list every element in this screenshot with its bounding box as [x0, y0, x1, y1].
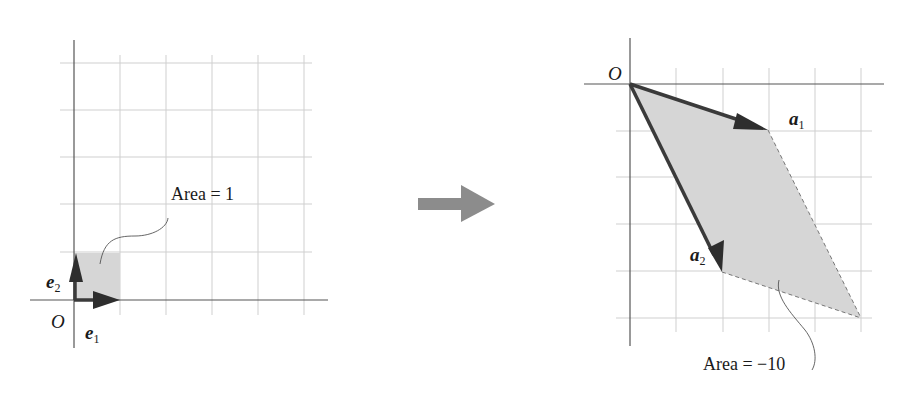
- vector-label-e1: e1: [85, 322, 99, 346]
- area-label-left: Area = 1: [171, 184, 234, 204]
- origin-label-right: O: [608, 63, 622, 84]
- right-panel: Area = −10 O a1 a2: [584, 38, 884, 374]
- figure-canvas: Area = 1 O e2 e1: [0, 0, 908, 399]
- left-panel: Area = 1 O e2 e1: [30, 40, 328, 348]
- vector-label-a1: a1: [789, 108, 805, 132]
- right-arrow-icon: [418, 185, 495, 222]
- vector-label-a2: a2: [690, 244, 706, 268]
- area-label-right: Area = −10: [703, 354, 785, 374]
- origin-label-left: O: [51, 311, 65, 332]
- vector-label-e2: e2: [46, 271, 60, 295]
